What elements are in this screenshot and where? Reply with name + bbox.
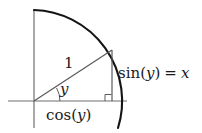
sine-equation-label: sin(y)=x	[118, 66, 189, 81]
cos-function-name: cos	[46, 106, 71, 124]
angle-label-text: y	[60, 80, 68, 98]
trigonometry-diagram: 1 y cos(y) sin(y)=x	[0, 0, 202, 133]
right-angle-marker	[105, 95, 112, 102]
sin-variable: y	[146, 64, 154, 82]
cos-close-paren: )	[85, 106, 91, 124]
radius-label-text: 1	[64, 54, 74, 72]
equals-sign: =	[160, 64, 181, 82]
cosine-label: cos(y)	[46, 108, 91, 123]
x-variable: x	[181, 64, 189, 82]
sin-function-name: sin	[118, 64, 140, 82]
angle-label: y	[60, 82, 68, 97]
radius-label: 1	[64, 56, 74, 71]
